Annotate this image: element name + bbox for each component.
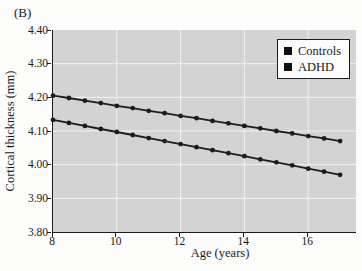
data-point-adhd	[83, 124, 88, 129]
data-point-adhd	[178, 142, 183, 147]
data-point-controls	[130, 106, 135, 111]
data-point-adhd	[194, 145, 199, 150]
data-point-controls	[306, 134, 311, 139]
data-point-adhd	[67, 121, 72, 126]
data-point-controls	[51, 93, 56, 98]
data-point-adhd	[226, 151, 231, 156]
data-point-controls	[67, 96, 72, 101]
data-point-controls	[114, 103, 119, 108]
data-point-controls	[146, 108, 151, 113]
data-point-adhd	[114, 130, 119, 135]
y-tick-mark	[47, 164, 51, 165]
legend-label-controls: Controls	[298, 43, 341, 59]
adhd-square-marker-icon	[284, 63, 292, 71]
data-point-adhd	[98, 127, 103, 132]
data-point-controls	[274, 129, 279, 134]
data-point-controls	[83, 98, 88, 103]
y-tick-mark	[47, 198, 51, 199]
data-point-controls	[210, 119, 215, 124]
y-tick-label: 4.30	[14, 57, 48, 69]
data-point-adhd	[274, 160, 279, 165]
y-tick-label: 4.20	[14, 91, 48, 103]
data-point-controls	[322, 136, 327, 141]
data-point-adhd	[258, 157, 263, 162]
legend-item-adhd: ADHD	[284, 59, 341, 75]
y-tick-label: 4.00	[14, 158, 48, 170]
legend-label-adhd: ADHD	[298, 59, 334, 75]
data-point-adhd	[210, 148, 215, 153]
y-tick-mark	[47, 232, 51, 233]
data-point-controls	[194, 116, 199, 121]
data-point-adhd	[338, 172, 343, 177]
legend-item-controls: Controls	[284, 43, 341, 59]
data-point-controls	[338, 139, 343, 144]
data-point-controls	[242, 124, 247, 129]
data-point-adhd	[162, 139, 167, 144]
data-point-adhd	[146, 136, 151, 141]
y-tick-label: 4.10	[14, 125, 48, 137]
legend: Controls ADHD	[277, 39, 350, 79]
data-point-controls	[290, 131, 295, 136]
y-tick-mark	[47, 30, 51, 31]
y-tick-label: 4.40	[14, 24, 48, 36]
x-tick-mark	[115, 233, 116, 237]
y-tick-label: 3.90	[14, 192, 48, 204]
data-point-controls	[162, 111, 167, 116]
data-point-controls	[98, 101, 103, 106]
figure-panel-b: (B) Cortical thickness (mm) Controls ADH…	[0, 0, 362, 271]
y-tick-mark	[47, 63, 51, 64]
data-point-adhd	[242, 154, 247, 159]
data-point-adhd	[322, 169, 327, 174]
data-point-adhd	[290, 163, 295, 168]
x-axis-title: Age (years)	[158, 246, 282, 261]
data-point-controls	[178, 114, 183, 119]
x-tick-mark	[52, 233, 53, 237]
data-point-controls	[258, 126, 263, 131]
panel-label: (B)	[14, 5, 31, 21]
plot-area: Controls ADHD	[52, 30, 356, 233]
data-point-controls	[226, 121, 231, 126]
x-tick-mark	[179, 233, 180, 237]
data-point-adhd	[130, 133, 135, 138]
y-tick-mark	[47, 131, 51, 132]
y-tick-mark	[47, 97, 51, 98]
x-tick-mark	[243, 233, 244, 237]
data-point-adhd	[51, 118, 56, 123]
controls-square-marker-icon	[284, 47, 292, 55]
data-point-adhd	[306, 166, 311, 171]
x-tick-mark	[307, 233, 308, 237]
